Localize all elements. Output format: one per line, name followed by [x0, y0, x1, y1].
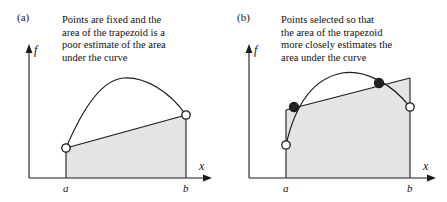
panel-b: (b) Points selected so that the area of … — [224, 0, 447, 202]
x-axis-arrow-icon — [427, 175, 436, 182]
y-axis-arrow-icon — [26, 44, 33, 53]
y-axis-arrow-icon — [246, 44, 253, 53]
x-tick-label-a: a — [63, 182, 69, 194]
trapezoid-fill — [66, 115, 186, 178]
panel-a: (a) Points are fixed and the area of the… — [0, 0, 223, 202]
point-a-marker — [282, 141, 290, 149]
interior-point-left-marker — [289, 102, 298, 111]
y-axis-label: f — [34, 43, 39, 57]
point-b-marker — [406, 103, 414, 111]
panel-a-plot: f x a b — [0, 0, 223, 202]
trapezoid-rule-figure: (a) Points are fixed and the area of the… — [0, 0, 447, 202]
panel-b-plot: f x a b — [224, 0, 447, 202]
trapezoid-fill — [286, 78, 410, 178]
y-axis-label: f — [254, 43, 259, 57]
x-tick-label-a: a — [283, 182, 289, 194]
point-a-marker — [62, 144, 70, 152]
point-b-marker — [182, 111, 190, 119]
x-axis-arrow-icon — [203, 175, 212, 182]
x-axis-label: x — [198, 159, 205, 173]
x-tick-label-b: b — [407, 182, 413, 194]
x-axis-label: x — [422, 159, 429, 173]
x-tick-label-b: b — [183, 182, 189, 194]
interior-point-right-marker — [374, 78, 383, 87]
